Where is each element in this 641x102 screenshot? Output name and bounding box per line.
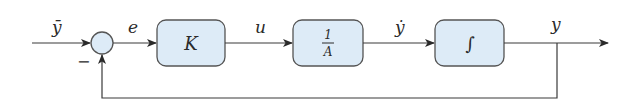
summing-junction <box>91 32 113 54</box>
inverse-numerator: 1 <box>324 28 332 42</box>
block-diagram: ȳ − e K u 1 A ẏ ∫ y <box>0 0 641 102</box>
output-label: y <box>550 14 561 34</box>
reference-label: ȳ <box>51 17 62 37</box>
minus-sign: − <box>77 52 90 71</box>
gain-block-label: K <box>183 33 199 54</box>
inverse-denominator: A <box>323 45 333 59</box>
integrator-block-label: ∫ <box>465 33 475 54</box>
control-label: u <box>255 17 266 37</box>
error-label: e <box>128 17 138 37</box>
rate-label: ẏ <box>394 17 405 37</box>
